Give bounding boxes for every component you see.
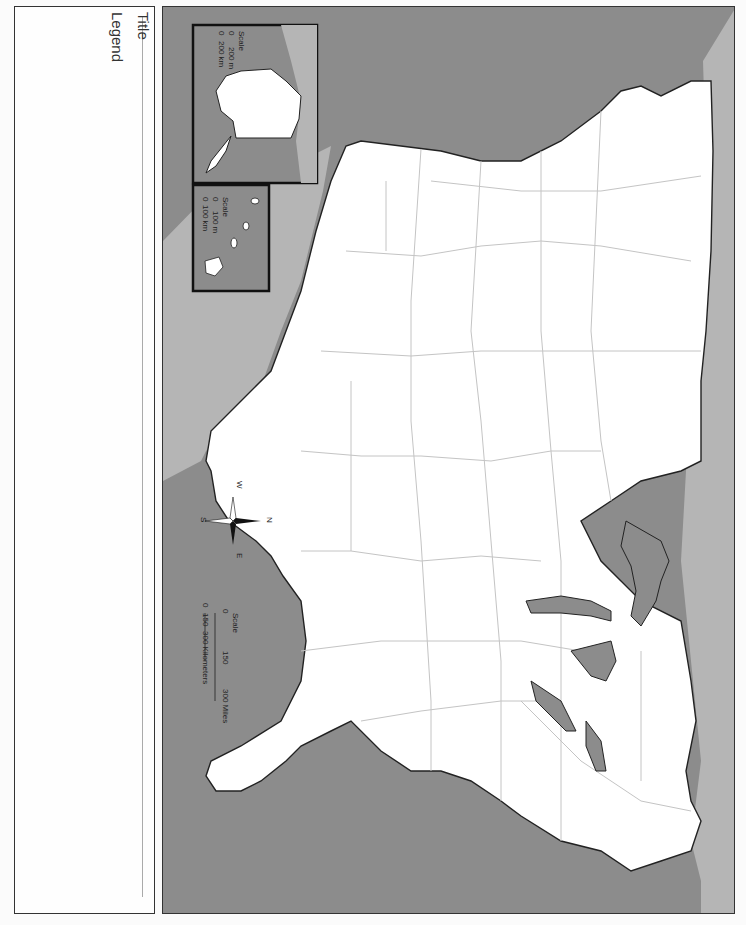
- legend-label: Legend: [109, 12, 126, 62]
- hawaii-scale-km-zero: 0: [201, 197, 210, 202]
- scale-miles-zero: 0: [221, 609, 230, 614]
- compass-east: E: [235, 553, 244, 558]
- hawaii-scale-miles-end: 100 m: [211, 211, 220, 234]
- compass-north: N: [265, 517, 274, 523]
- scale-km-zero: 0: [201, 603, 210, 608]
- hawaii-inset: Scale 0 100 m 0 100 km: [193, 185, 269, 291]
- scale-label: Scale: [231, 613, 240, 634]
- title-label: Title: [135, 12, 152, 40]
- compass-west: W: [235, 481, 244, 489]
- alaska-inset: Scale 0 200 m 0 200 km: [193, 25, 317, 183]
- map-frame: Scale 0 200 m 0 200 km Scale 0 100 m 0 1…: [162, 6, 735, 914]
- scale-miles-mid: 150: [221, 651, 230, 665]
- compass-south: S: [199, 517, 208, 522]
- scale-km-mid: 150: [201, 613, 210, 627]
- hawaii-scale-miles-zero: 0: [211, 197, 220, 202]
- alaska-scale-km-end: 200 km: [217, 41, 226, 68]
- alaska-scale-miles-zero: 0: [227, 31, 236, 36]
- scale-miles-end: 300 Miles: [221, 689, 230, 723]
- alaska-scale-km-zero: 0: [217, 31, 226, 36]
- hawaii-scale-km-end: 100 km: [201, 205, 210, 232]
- hawaii-scale-label: Scale: [221, 197, 230, 218]
- title-divider: [142, 17, 143, 897]
- scale-km-end: 300 Kilometers: [201, 631, 210, 684]
- alaska-scale-miles-end: 200 m: [227, 47, 236, 70]
- title-legend-panel: [14, 6, 155, 914]
- alaska-scale-label: Scale: [237, 31, 246, 52]
- us-map: Scale 0 200 m 0 200 km Scale 0 100 m 0 1…: [163, 7, 735, 914]
